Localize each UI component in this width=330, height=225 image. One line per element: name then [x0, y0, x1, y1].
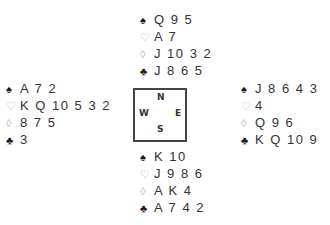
diamond-icon: ◊: [140, 46, 154, 63]
diamond-icon: ◊: [140, 183, 154, 200]
south-diamonds: ◊A K 4: [140, 182, 205, 199]
east-clubs: ♣K Q 10 9: [241, 131, 318, 148]
club-icon: ♣: [140, 63, 154, 80]
north-spades: ♠Q 9 5: [140, 11, 212, 28]
compass-south: S: [157, 124, 163, 134]
west-hand: ♠A 7 2 ♡K Q 10 5 3 2 ◊8 7 5 ♣3: [6, 80, 111, 148]
club-icon: ♣: [241, 132, 255, 149]
east-hearts: ♡4: [241, 97, 318, 114]
west-diamonds: ◊8 7 5: [6, 114, 111, 131]
south-clubs: ♣A 7 4 2: [140, 199, 205, 216]
spade-icon: ♠: [241, 81, 255, 98]
east-diamonds: ◊Q 9 6: [241, 114, 318, 131]
north-diamonds: ◊J 10 3 2: [140, 45, 212, 62]
west-clubs: ♣3: [6, 131, 111, 148]
west-spades: ♠A 7 2: [6, 80, 111, 97]
compass-north: N: [157, 92, 165, 102]
north-clubs: ♣J 8 6 5: [140, 62, 212, 79]
north-hearts: ♡A 7: [140, 28, 212, 45]
north-hand: ♠Q 9 5 ♡A 7 ◊J 10 3 2 ♣J 8 6 5: [140, 11, 212, 79]
spade-icon: ♠: [140, 149, 154, 166]
compass-east: E: [175, 108, 181, 118]
club-icon: ♣: [140, 200, 154, 217]
east-spades: ♠J 8 6 4 3: [241, 80, 318, 97]
heart-icon: ♡: [241, 98, 255, 115]
diamond-icon: ◊: [6, 115, 20, 132]
south-hearts: ♡J 9 8 6: [140, 165, 205, 182]
south-spades: ♠K 10: [140, 148, 205, 165]
compass-west: W: [139, 108, 149, 118]
west-hearts: ♡K Q 10 5 3 2: [6, 97, 111, 114]
heart-icon: ♡: [140, 166, 154, 183]
club-icon: ♣: [6, 132, 20, 149]
compass-box: N W E S: [133, 88, 187, 142]
diamond-icon: ◊: [241, 115, 255, 132]
spade-icon: ♠: [140, 12, 154, 29]
heart-icon: ♡: [140, 29, 154, 46]
east-hand: ♠J 8 6 4 3 ♡4 ◊Q 9 6 ♣K Q 10 9: [241, 80, 318, 148]
spade-icon: ♠: [6, 81, 20, 98]
heart-icon: ♡: [6, 98, 20, 115]
south-hand: ♠K 10 ♡J 9 8 6 ◊A K 4 ♣A 7 4 2: [140, 148, 205, 216]
